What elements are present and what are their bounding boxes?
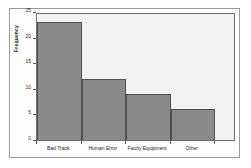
x-axis-category-label: Human Error bbox=[81, 145, 126, 151]
x-axis-category-label: Faulty Equipment bbox=[125, 145, 170, 151]
y-axis: 0510152025 bbox=[0, 13, 36, 141]
bar-series bbox=[37, 14, 215, 140]
x-tick-mark bbox=[125, 141, 126, 144]
y-tick-label: 5 bbox=[28, 110, 31, 115]
y-tick-label: 10 bbox=[25, 85, 31, 90]
bar bbox=[82, 79, 127, 140]
bar bbox=[37, 22, 82, 140]
x-tick-mark bbox=[170, 141, 171, 144]
x-axis-tick-marks bbox=[36, 141, 214, 144]
bar bbox=[171, 109, 216, 140]
x-tick-mark bbox=[81, 141, 82, 144]
x-axis-tick-labels: Bad TrackHuman ErrorFaulty EquipmentOthe… bbox=[36, 145, 214, 151]
x-axis-category-label: Other bbox=[170, 145, 215, 151]
y-tick-label: 20 bbox=[25, 34, 31, 39]
x-axis: Bad TrackHuman ErrorFaulty EquipmentOthe… bbox=[36, 141, 235, 155]
y-tick-label: 0 bbox=[28, 136, 31, 141]
x-tick-mark bbox=[36, 141, 37, 144]
plot-frame bbox=[36, 13, 235, 141]
bar bbox=[126, 94, 171, 140]
x-tick-mark bbox=[214, 141, 215, 144]
y-tick-label: 25 bbox=[25, 8, 31, 13]
x-axis-category-label: Bad Track bbox=[36, 145, 81, 151]
y-tick-label: 15 bbox=[25, 59, 31, 64]
plot-area bbox=[37, 14, 234, 140]
bar-chart-figure: Frequency 0510152025 Bad TrackHuman Erro… bbox=[0, 0, 251, 168]
